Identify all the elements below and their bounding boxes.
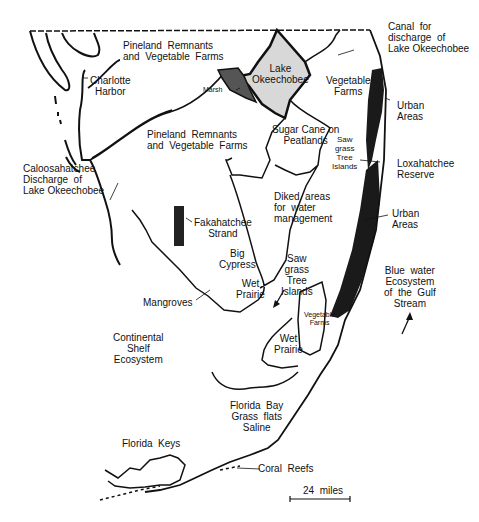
label-pineland-central: Pineland Remnants and Vegetable Farms [147, 129, 248, 151]
label-big-cypress: Big Cypress [219, 248, 256, 270]
label-canal-discharge: Canal for discharge of Lake Okeechobee [388, 21, 469, 54]
label-wet-prairie-west: Wet Prairie [236, 278, 265, 300]
label-urban-areas-south: Urban Areas [392, 208, 419, 230]
label-coral-reefs: Coral Reefs [258, 463, 314, 474]
urban-area-south [330, 160, 380, 318]
arrow-head-sawgrass [273, 300, 280, 308]
scale-bar-label: 24 miles [303, 485, 343, 496]
northern-boundary [30, 30, 370, 31]
label-lake-okeechobee: Lake Okeechobee [252, 63, 309, 85]
label-marsh: Marsh [203, 86, 222, 94]
label-sugar-cane: Sugar Cane on Peatlands [272, 124, 339, 146]
label-vegetable-farms-north: Vegetable Farms [326, 75, 371, 97]
label-sawgrass-north: Saw grass Tree Islands [332, 135, 357, 171]
label-urban-areas-north: Urban Areas [397, 100, 424, 122]
label-continental-shelf: Continental Shelf Ecosystem [113, 332, 164, 365]
fakahatchee-strand [174, 206, 184, 246]
label-mangroves: Mangroves [143, 297, 192, 308]
label-florida-bay: Florida Bay Grass flats Saline [230, 400, 283, 433]
barrier-islands [55, 96, 80, 172]
florida-bay-edge [212, 372, 298, 389]
scale-bar-line [290, 496, 350, 502]
label-diked-areas: Diked areas for water management [274, 191, 332, 224]
label-fakahatchee: Fakahatchee Strand [194, 217, 252, 239]
arrow-head-blue-water [406, 312, 413, 320]
label-pineland-north: Pineland Remnants and Vegetable Farms [123, 40, 224, 62]
label-blue-water: Blue water Ecosystem of the Gulf Stream [384, 265, 436, 309]
florida-keys [105, 455, 185, 488]
label-vegetable-farms-south: Vegetable Farms [304, 311, 335, 327]
keys-islands [100, 466, 240, 500]
label-wet-prairie-east: Wet Prairie [274, 333, 303, 355]
label-florida-keys: Florida Keys [122, 438, 180, 449]
label-sawgrass-south: Saw grass Tree Islands [281, 253, 313, 297]
label-loxahatchee: Loxahatchee Reserve [397, 158, 454, 180]
label-charlotte-harbor: Charlotte Harbor [90, 75, 131, 97]
label-caloosahatchee: Caloosahatchee Discharge of Lake Okeecho… [23, 163, 104, 196]
